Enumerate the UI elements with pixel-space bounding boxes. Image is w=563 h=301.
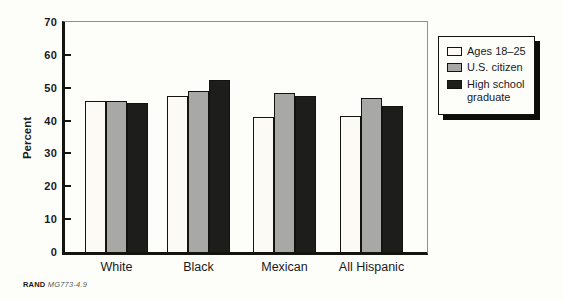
y-tick-mark <box>65 185 71 187</box>
y-axis-labels: 010203040506070 <box>0 0 57 301</box>
bar <box>253 117 274 252</box>
y-tick-mark <box>65 152 71 154</box>
bar <box>209 80 230 253</box>
bar <box>340 116 361 252</box>
y-tick-label: 60 <box>44 49 57 61</box>
y-tick-label: 20 <box>44 180 57 192</box>
y-tick-label: 30 <box>44 147 57 159</box>
y-tick-mark <box>65 218 71 220</box>
bar-group <box>85 101 148 252</box>
x-category-label: Mexican <box>261 260 308 274</box>
legend-label: U.S. citizen <box>467 61 523 74</box>
bar <box>85 101 106 252</box>
legend: Ages 18–25U.S. citizenHigh school gradua… <box>438 36 535 115</box>
legend-swatch <box>447 80 462 89</box>
source-brand: RAND <box>23 280 45 289</box>
bar <box>361 98 382 252</box>
y-tick-mark <box>65 54 71 56</box>
bar <box>167 96 188 252</box>
y-tick-label: 10 <box>44 213 57 225</box>
bar-group <box>253 93 316 252</box>
bar-group <box>340 98 403 252</box>
legend-swatch <box>447 47 462 56</box>
bar <box>274 93 295 252</box>
y-tick-mark <box>65 120 71 122</box>
legend-item: Ages 18–25 <box>447 45 529 58</box>
bar <box>382 106 403 252</box>
legend-label: High school graduate <box>467 78 529 105</box>
y-tick-mark <box>65 87 71 89</box>
y-tick-label: 40 <box>44 115 57 127</box>
bar-group <box>167 80 230 253</box>
y-tick-label: 70 <box>44 16 57 28</box>
source-note: RAND MG773-4.9 <box>23 280 87 289</box>
x-category-label: Black <box>183 260 214 274</box>
bar-chart-figure: Percent 010203040506070 WhiteBlackMexica… <box>0 0 563 301</box>
legend-items: Ages 18–25U.S. citizenHigh school gradua… <box>447 45 529 105</box>
legend-item: U.S. citizen <box>447 61 529 74</box>
x-category-label: All Hispanic <box>339 260 404 274</box>
legend-item: High school graduate <box>447 78 529 105</box>
legend-label: Ages 18–25 <box>467 45 526 58</box>
y-tick-label: 50 <box>44 82 57 94</box>
bar <box>295 96 316 252</box>
source-doc-id: MG773-4.9 <box>48 280 87 289</box>
legend-swatch <box>447 63 462 72</box>
bar <box>127 103 148 253</box>
x-category-label: White <box>101 260 133 274</box>
bar <box>106 101 127 252</box>
plot-area <box>62 21 428 255</box>
y-tick-label: 0 <box>51 246 57 258</box>
bar <box>188 91 209 252</box>
